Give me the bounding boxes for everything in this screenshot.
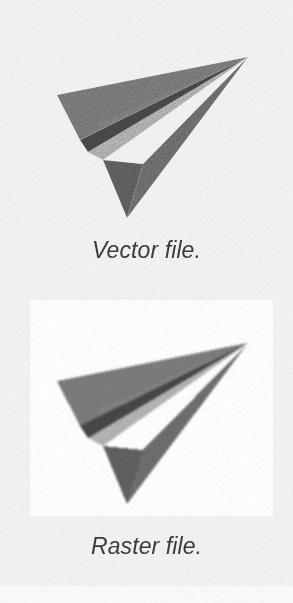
page-bottom-margin	[0, 586, 293, 603]
raster-panel: Raster file.	[0, 290, 293, 603]
vector-panel: Vector file.	[0, 0, 293, 290]
figure-page: Vector file. Raster file.	[0, 0, 293, 603]
vector-caption: Vector file.	[0, 237, 293, 264]
paper-plane-icon-raster	[30, 300, 273, 516]
paper-plane-icon-vector	[0, 0, 293, 235]
raster-artwork	[30, 300, 273, 516]
vector-artwork	[0, 0, 293, 235]
raster-caption: Raster file.	[0, 533, 293, 560]
